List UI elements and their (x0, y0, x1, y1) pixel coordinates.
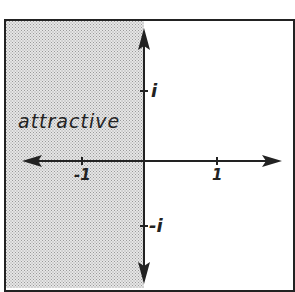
label-neg1: -1 (74, 166, 91, 184)
complex-plane (0, 0, 295, 292)
label-pos1: 1 (212, 166, 222, 184)
region-label: attractive (18, 110, 120, 132)
label-i: i (151, 80, 157, 101)
attractive-region (6, 21, 144, 288)
label-neg-i: -i (149, 215, 163, 236)
